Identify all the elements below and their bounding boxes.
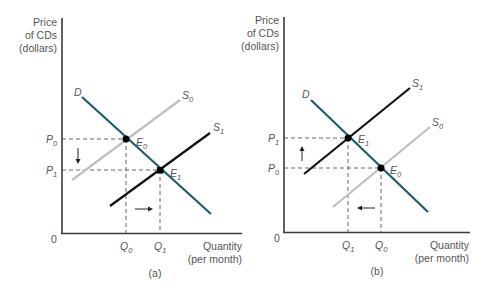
q0-label: Q0 [375, 239, 388, 254]
supply-demand-diagram: Price of CDs (dollars) D S0 S1 E0 E1 P0 … [0, 0, 485, 291]
s0-label: S0 [432, 116, 444, 131]
panel-caption-b: (b) [371, 265, 384, 277]
demand-curve [311, 100, 428, 212]
y-axis-label-line3: (dollars) [241, 40, 279, 52]
y-axis-label-line3: (dollars) [19, 42, 57, 54]
q1-label: Q1 [154, 240, 166, 255]
s0-label: S0 [182, 89, 194, 104]
x-axis-label-line1: Quantity [203, 240, 243, 252]
x-axis-label-line1: Quantity [430, 239, 470, 251]
price-down-arrow-icon [76, 148, 81, 164]
quantity-left-arrow-icon [357, 206, 375, 211]
s1-label: S1 [412, 77, 423, 92]
supply-curve-s1 [304, 88, 410, 174]
panel-a: Price of CDs (dollars) D S0 S1 E0 E1 P0 … [19, 16, 243, 279]
panel-b: Price of CDs (dollars) D S1 S0 E1 E0 P1 … [241, 14, 470, 277]
demand-label: D [74, 86, 82, 98]
p1-label: P1 [268, 132, 279, 147]
demand-label: D [302, 88, 310, 100]
equilibrium-point-e0 [123, 136, 130, 143]
y-axis-label-line1: Price [255, 14, 279, 26]
demand-curve [82, 97, 211, 214]
y-axis-label-line1: Price [33, 16, 57, 28]
y-axis-label-line2: of CDs [247, 27, 279, 39]
q1-label: Q1 [342, 239, 354, 254]
p0-label: P0 [268, 162, 280, 177]
equilibrium-point-e1 [157, 167, 164, 174]
q0-label: Q0 [120, 240, 133, 255]
x-axis-label-line2: (per month) [415, 252, 469, 264]
y-axis-label-line2: of CDs [25, 29, 57, 41]
equilibrium-point-e1 [345, 135, 352, 142]
quantity-right-arrow-icon [135, 207, 153, 212]
origin-label: 0 [274, 232, 280, 244]
origin-label: 0 [51, 233, 57, 245]
panel-caption-a: (a) [149, 267, 162, 279]
p0-label: P0 [46, 133, 58, 148]
x-axis-label-line2: (per month) [188, 253, 242, 265]
price-up-arrow-icon [300, 146, 305, 161]
p1-label: P1 [46, 164, 57, 179]
equilibrium-point-e0 [378, 165, 385, 172]
s1-label: S1 [213, 121, 224, 136]
